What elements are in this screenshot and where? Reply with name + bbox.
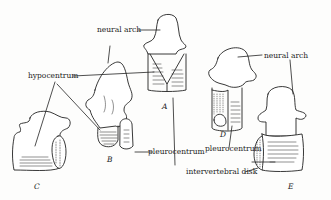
label-pleurocentrum-2: pleurocentrum — [205, 145, 262, 153]
vertebrae-diagram: neural arch hypocentrum neural arch pleu… — [0, 0, 331, 200]
label-neural-arch-1: neural arch — [97, 26, 141, 34]
figure-label-b: B — [107, 156, 113, 164]
vertebra-a — [144, 14, 186, 91]
vertebra-d — [209, 48, 256, 131]
figure-label-e: E — [288, 183, 293, 191]
vertebrae-drawing — [0, 0, 331, 200]
vertebra-c — [13, 111, 71, 170]
figure-label-d: D — [220, 131, 226, 139]
vertebra-e — [254, 87, 306, 172]
label-neural-arch-2: neural arch — [264, 52, 308, 60]
figure-label-a: A — [162, 103, 167, 111]
label-hypocentrum: hypocentrum — [28, 72, 78, 80]
figure-label-c: C — [34, 183, 40, 191]
label-pleurocentrum-1: pleurocentrum — [148, 148, 205, 156]
label-intervertebral-disk: intervertebral disk — [186, 168, 257, 176]
